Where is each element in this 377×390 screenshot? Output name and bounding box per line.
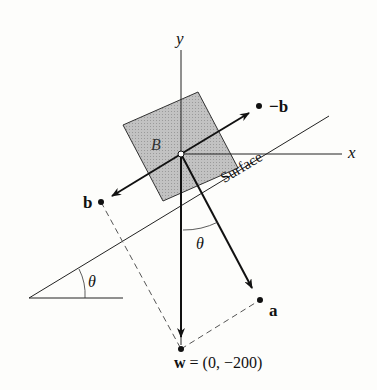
- incline-angle-arc: [79, 269, 85, 298]
- neg-b-label: −b: [269, 98, 288, 115]
- dashed-w-to-a: [181, 300, 260, 349]
- b-label: b: [83, 194, 92, 211]
- theta-arc-wa: [183, 222, 218, 230]
- point-neg-b: [256, 103, 262, 109]
- y-axis-label: y: [176, 30, 184, 47]
- theta-label-vectors: θ: [196, 236, 204, 252]
- a-label: a: [269, 302, 278, 319]
- w-value: = (0, −200): [190, 354, 263, 371]
- point-a: [257, 297, 263, 303]
- block-label: B: [151, 137, 161, 153]
- point-w: [178, 346, 184, 352]
- theta-label-incline: θ: [88, 274, 96, 290]
- x-axis-label: x: [348, 144, 356, 161]
- w-value-label: w = (0, −200): [174, 355, 262, 371]
- point-b: [98, 199, 104, 205]
- diagram-canvas: [0, 0, 377, 390]
- w-label: w: [174, 354, 186, 371]
- origin-point: [178, 151, 184, 157]
- dashed-b-to-w: [101, 202, 181, 349]
